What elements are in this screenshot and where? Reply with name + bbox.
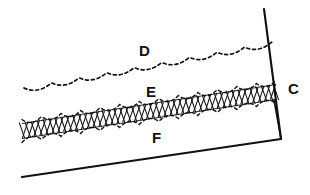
- label-e: E: [146, 83, 156, 100]
- figure-canvas: C D E F: [0, 0, 310, 195]
- technical-drawing-svg: C D E F: [0, 0, 310, 195]
- label-d: D: [139, 42, 150, 59]
- label-c: C: [288, 80, 299, 97]
- label-f: F: [152, 129, 161, 146]
